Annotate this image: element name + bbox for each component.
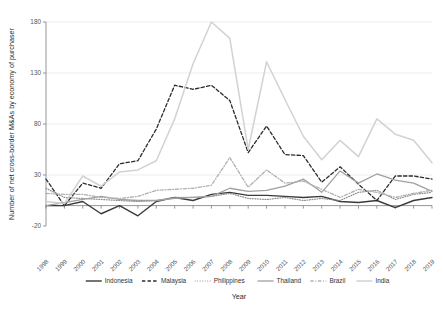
x-tick-label: 1998: [35, 257, 50, 272]
legend-item-indonesia[interactable]: Indonesia: [86, 277, 133, 284]
legend-label-thailand: Thailand: [277, 277, 302, 284]
x-tick-label: 2012: [292, 257, 307, 272]
x-tick-label: 2003: [127, 257, 142, 272]
x-tick-label: 2013: [311, 257, 326, 272]
y-tick-label: -20: [32, 222, 42, 229]
chart-figure: -203080130180199819992000200120022003200…: [0, 0, 443, 309]
y-tick-label: 180: [30, 18, 41, 25]
x-tick-label: 2005: [164, 257, 179, 272]
x-tick-label: 2002: [109, 257, 124, 272]
legend-item-brazil[interactable]: Brazil: [310, 277, 345, 284]
line-chart: -203080130180199819992000200120022003200…: [0, 0, 443, 309]
x-tick-label: 2006: [182, 257, 197, 272]
legend-item-thailand[interactable]: Thailand: [258, 277, 302, 284]
x-tick-label: 2014: [329, 257, 344, 272]
legend-label-philippines: Philippines: [214, 277, 245, 285]
x-tick-label: 2004: [145, 257, 160, 272]
x-tick-label: 2009: [237, 257, 252, 272]
legend-label-india: India: [375, 277, 389, 284]
x-tick-label: 2015: [347, 257, 362, 272]
legend-label-malaysia: Malaysia: [161, 277, 187, 285]
legend-item-philippines[interactable]: Philippines: [195, 277, 245, 285]
legend-label-brazil: Brazil: [329, 277, 345, 284]
x-tick-label: 2017: [384, 257, 399, 272]
series-line-india: [46, 22, 432, 204]
x-tick-label: 2011: [274, 257, 289, 272]
x-tick-label: 2000: [72, 257, 87, 272]
x-axis-title: Year: [232, 292, 247, 301]
x-tick-label: 2001: [90, 257, 105, 272]
x-tick-label: 2008: [219, 257, 234, 272]
y-tick-label: 80: [34, 120, 42, 127]
y-axis-title: Number of net cross-border M&As by econo…: [7, 28, 16, 220]
x-tick-label: 2018: [403, 257, 418, 272]
legend-item-india[interactable]: India: [356, 277, 389, 284]
legend-item-malaysia[interactable]: Malaysia: [142, 277, 187, 285]
x-tick-label: 1999: [53, 257, 68, 272]
series-line-malaysia: [46, 85, 432, 205]
x-tick-label: 2007: [200, 257, 215, 272]
x-tick-label: 2016: [366, 257, 381, 272]
x-tick-label: 2019: [421, 257, 436, 272]
y-tick-label: 130: [30, 69, 41, 76]
y-tick-label: 30: [34, 171, 42, 178]
x-tick-label: 2010: [256, 257, 271, 272]
series-line-brazil: [46, 158, 432, 199]
legend-label-indonesia: Indonesia: [105, 277, 133, 284]
